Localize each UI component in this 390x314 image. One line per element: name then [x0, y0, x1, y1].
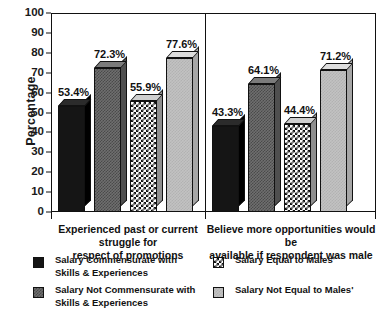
bar-side — [121, 56, 127, 206]
chart-legend: Salary Commensurate with Skills & Experi… — [0, 252, 390, 314]
y-tick-label-30: 30 — [12, 147, 44, 159]
legend-swatch-0 — [33, 257, 44, 268]
bar-g1-s3 — [320, 70, 347, 212]
bar-top — [212, 119, 239, 126]
legend-item-0[interactable]: Salary Commensurate with Skills & Experi… — [33, 254, 177, 280]
y-tick-label-100: 100 — [12, 7, 44, 19]
legend-item-3[interactable]: Salary Not Equal to Males' — [213, 284, 353, 298]
bar-front-face — [212, 126, 239, 212]
bar-front-face — [320, 70, 347, 212]
bar-g0-s0 — [58, 106, 85, 212]
data-label-g0-s3: 77.6% — [166, 38, 197, 50]
bar-g0-s1 — [94, 68, 121, 212]
bar-front-face — [130, 101, 157, 212]
bar-g1-s2 — [284, 124, 311, 212]
legend-label-1: Salary Not Commensurate with Skills & Ex… — [55, 284, 195, 310]
data-label-g0-s0: 53.4% — [58, 86, 89, 98]
bar-top — [94, 61, 121, 68]
legend-label-3: Salary Not Equal to Males' — [235, 284, 353, 297]
legend-item-1[interactable]: Salary Not Commensurate with Skills & Ex… — [33, 284, 195, 310]
data-label-g1-s3: 71.2% — [320, 50, 351, 62]
data-label-g1-s1: 64.1% — [248, 64, 279, 76]
bar-top — [130, 94, 157, 101]
data-label-g0-s1: 72.3% — [94, 48, 125, 60]
bar-side — [239, 114, 245, 206]
bar-front-face — [284, 124, 311, 212]
bar-chart: Percentage 1009080706050403020100 53.4%7… — [0, 0, 390, 314]
bar-top — [284, 117, 311, 124]
group-tick-0 — [51, 212, 52, 219]
bar-front-face — [58, 106, 85, 212]
bar-front-face — [94, 68, 121, 212]
bar-g1-s1 — [248, 84, 275, 212]
y-tick-label-70: 70 — [12, 67, 44, 79]
legend-swatch-2 — [213, 257, 224, 268]
y-tick-label-20: 20 — [12, 166, 44, 178]
legend-label-2: Salary Equal to Males' — [235, 254, 335, 267]
bar-side — [193, 46, 199, 206]
group-tick-2 — [375, 212, 376, 219]
y-tick-label-40: 40 — [12, 127, 44, 139]
group-divider — [205, 13, 206, 212]
data-label-g1-s0: 43.3% — [212, 106, 243, 118]
y-tick-label-60: 60 — [12, 87, 44, 99]
y-tick-label-10: 10 — [12, 186, 44, 198]
bar-side — [275, 73, 281, 206]
bar-top — [320, 63, 347, 70]
bar-g0-s2 — [130, 101, 157, 212]
bar-top — [166, 51, 193, 58]
y-tick-label-80: 80 — [12, 47, 44, 59]
legend-swatch-1 — [33, 287, 44, 298]
bar-top — [248, 77, 275, 84]
bar-side — [347, 59, 353, 206]
legend-label-0: Salary Commensurate with Skills & Experi… — [55, 254, 177, 280]
y-tick-label-90: 90 — [12, 27, 44, 39]
y-tick-label-0: 0 — [12, 206, 44, 218]
bar-front-face — [248, 84, 275, 212]
bar-top-face — [166, 51, 199, 58]
bar-top — [58, 99, 85, 106]
legend-item-2[interactable]: Salary Equal to Males' — [213, 254, 335, 268]
bar-side — [157, 89, 163, 206]
bar-g1-s0 — [212, 126, 239, 212]
data-label-g1-s2: 44.4% — [284, 104, 315, 116]
data-label-g0-s2: 55.9% — [130, 81, 161, 93]
legend-swatch-3 — [213, 287, 224, 298]
bar-g0-s3 — [166, 58, 193, 212]
group-tick-1 — [205, 212, 206, 219]
y-tick-label-50: 50 — [12, 107, 44, 119]
bar-front-face — [166, 58, 193, 212]
bar-side — [311, 112, 317, 206]
bar-side — [85, 94, 91, 206]
